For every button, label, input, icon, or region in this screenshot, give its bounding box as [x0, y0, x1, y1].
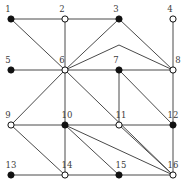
graph-node-9[interactable]	[8, 122, 14, 128]
graph-node-13[interactable]	[8, 172, 14, 178]
edge-layer	[11, 19, 173, 175]
graph-edge-1-6	[11, 19, 65, 70]
graph-node-label-10: 10	[62, 110, 73, 120]
graph-edge-9-14	[11, 125, 65, 175]
graph-node-1[interactable]	[8, 16, 14, 22]
graph-edge-11-16	[119, 125, 173, 175]
graph-node-4[interactable]	[170, 16, 176, 22]
graph-edge-6-9	[11, 70, 65, 125]
graph-node-16[interactable]	[170, 172, 176, 178]
graph-node-label-13: 13	[6, 160, 17, 170]
graph-canvas: 12345678910111213141516	[0, 0, 194, 188]
graph-node-15[interactable]	[116, 172, 122, 178]
graph-edge-7-12	[119, 70, 173, 125]
graph-edge-3-8	[119, 19, 173, 70]
graph-node-label-15: 15	[116, 160, 127, 170]
graph-node-label-5: 5	[5, 55, 10, 65]
graph-node-label-3: 3	[113, 4, 118, 14]
graph-node-label-11: 11	[116, 110, 127, 120]
graph-node-7[interactable]	[116, 67, 122, 73]
graph-edge-6-8	[65, 45, 173, 70]
graph-node-6[interactable]	[62, 67, 68, 73]
graph-edge-3-6	[65, 19, 119, 70]
graph-node-label-8: 8	[175, 55, 180, 65]
graph-node-label-4: 4	[167, 4, 172, 14]
graph-node-label-6: 6	[59, 55, 64, 65]
graph-node-label-2: 2	[59, 4, 64, 14]
graph-node-12[interactable]	[170, 122, 176, 128]
graph-node-label-7: 7	[113, 55, 118, 65]
graph-node-10[interactable]	[62, 122, 68, 128]
graph-node-8[interactable]	[170, 67, 176, 73]
graph-node-label-16: 16	[168, 160, 179, 170]
label-layer: 12345678910111213141516	[5, 4, 180, 170]
graph-node-2[interactable]	[62, 16, 68, 22]
graph-figure: 12345678910111213141516	[0, 0, 194, 188]
graph-node-label-14: 14	[62, 160, 73, 170]
graph-node-label-12: 12	[168, 110, 179, 120]
graph-node-5[interactable]	[8, 67, 14, 73]
graph-node-label-1: 1	[5, 4, 10, 14]
graph-node-14[interactable]	[62, 172, 68, 178]
graph-node-label-9: 9	[5, 110, 10, 120]
graph-node-3[interactable]	[116, 16, 122, 22]
graph-edge-10-15	[65, 125, 119, 175]
graph-node-11[interactable]	[116, 122, 122, 128]
